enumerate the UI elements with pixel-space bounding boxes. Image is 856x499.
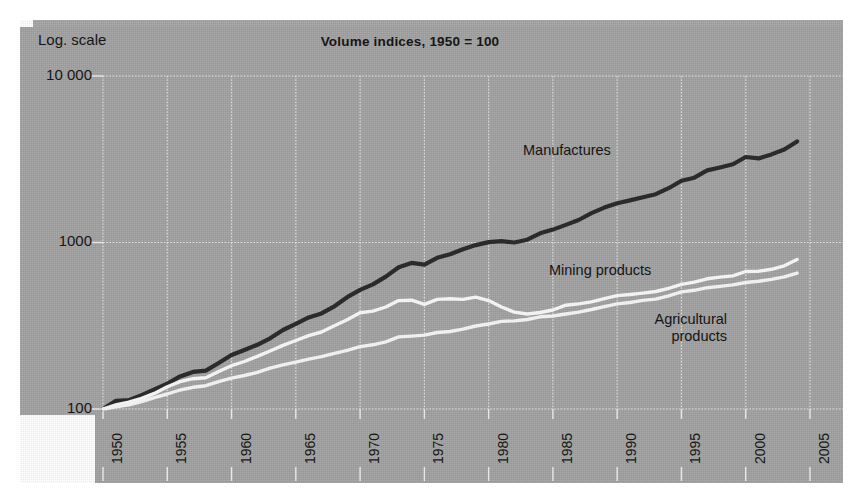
y-tick-label-100: 100 — [10, 399, 92, 416]
x-tick-label-2000: 2000 — [752, 433, 768, 464]
series-label-agricultural: Agricultural products — [607, 311, 727, 345]
x-tick-label-1995: 1995 — [687, 433, 703, 464]
x-tick-label-1960: 1960 — [238, 433, 254, 464]
log-scale-note: Log. scale — [38, 31, 106, 48]
chart-title: Volume indices, 1950 = 100 — [200, 34, 620, 49]
line-chart-plot — [0, 0, 856, 499]
horizontal-gridlines — [103, 76, 843, 409]
series-label-mining: Mining products — [549, 262, 651, 279]
x-tick-label-1965: 1965 — [302, 433, 318, 464]
x-tick-label-1955: 1955 — [173, 433, 189, 464]
x-tick-label-1950: 1950 — [109, 433, 125, 464]
y-tick-label-10000: 10 000 — [10, 66, 92, 83]
x-tick-label-1970: 1970 — [366, 433, 382, 464]
x-tick-label-1985: 1985 — [559, 433, 575, 464]
x-tick-label-1980: 1980 — [495, 433, 511, 464]
x-tick-label-2005: 2005 — [816, 433, 832, 464]
x-axis-ticks — [103, 409, 810, 481]
series-line-manufactures — [103, 141, 797, 409]
y-tick-label-1000: 1000 — [10, 232, 92, 249]
series-label-manufactures: Manufactures — [523, 142, 611, 159]
y-axis-ticks — [91, 76, 103, 409]
x-tick-label-1975: 1975 — [430, 433, 446, 464]
bottom-caption — [500, 486, 856, 498]
series-lines — [103, 141, 797, 409]
x-tick-label-1990: 1990 — [623, 433, 639, 464]
